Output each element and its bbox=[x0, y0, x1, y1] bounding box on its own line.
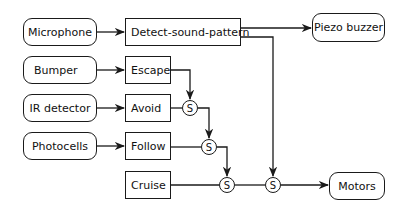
actuator-piezo-buzzer: Piezo buzzer bbox=[312, 13, 385, 42]
suppressor-label: S bbox=[206, 142, 212, 153]
edge-escape-s1 bbox=[171, 70, 190, 99]
behavior-escape: Escape bbox=[125, 56, 171, 84]
behavior-cruise: Cruise bbox=[125, 171, 171, 199]
sensor-label: IR detector bbox=[30, 102, 91, 115]
sensor-photocells: Photocells bbox=[23, 132, 97, 160]
suppressor-node-2: S bbox=[201, 139, 217, 155]
behavior-avoid: Avoid bbox=[125, 94, 171, 122]
behavior-label: Detect-sound-pattern bbox=[131, 26, 249, 39]
behavior-follow: Follow bbox=[125, 132, 171, 160]
edge-s1-s2 bbox=[198, 108, 209, 138]
sensor-microphone: Microphone bbox=[23, 18, 97, 46]
suppressor-node-1: S bbox=[182, 100, 198, 116]
behavior-label: Avoid bbox=[131, 102, 161, 115]
suppressor-label: S bbox=[270, 180, 276, 191]
suppressor-label: S bbox=[224, 180, 230, 191]
sensor-label: Bumper bbox=[34, 64, 78, 77]
suppressor-node-3: S bbox=[219, 177, 235, 193]
actuator-motors: Motors bbox=[329, 172, 385, 200]
sensor-label: Photocells bbox=[32, 140, 88, 153]
behavior-label: Escape bbox=[131, 64, 170, 77]
actuator-label: Motors bbox=[338, 180, 376, 193]
sensor-label: Microphone bbox=[28, 26, 92, 39]
behavior-label: Follow bbox=[131, 140, 166, 153]
sensor-ir-detector: IR detector bbox=[23, 94, 97, 122]
actuator-label: Piezo buzzer bbox=[314, 21, 383, 34]
behavior-detect-sound-pattern: Detect-sound-pattern bbox=[125, 18, 241, 46]
edge-detect-s4 bbox=[241, 37, 273, 176]
behavior-label: Cruise bbox=[131, 179, 166, 192]
suppressor-node-4: S bbox=[265, 177, 281, 193]
edge-s2-s3 bbox=[217, 147, 227, 176]
sensor-bumper: Bumper bbox=[23, 56, 97, 84]
suppressor-label: S bbox=[187, 103, 193, 114]
